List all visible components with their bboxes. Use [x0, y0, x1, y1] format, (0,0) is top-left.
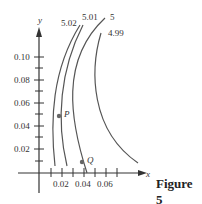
curve-label: 5.02	[61, 18, 77, 28]
level-curve-plot: 0.10 0.08 0.06 0.04 0.02 0.02 0.04 0.06 …	[0, 0, 202, 204]
curve-label: 5	[110, 12, 115, 22]
level-curve-5	[73, 18, 105, 173]
figure-5: 0.10 0.08 0.06 0.04 0.02 0.02 0.04 0.06 …	[0, 0, 202, 204]
level-curve-5-02	[53, 25, 80, 166]
point-p-label: P	[63, 109, 70, 119]
figure-caption: Figure 5	[156, 176, 202, 204]
y-tick-label: 0.02	[14, 144, 30, 154]
curve-label: 4.99	[108, 28, 124, 38]
y-tick-label: 0.08	[14, 75, 30, 85]
point-p-marker	[57, 114, 61, 118]
level-curve-4-99	[95, 33, 138, 163]
x-tick-label: 0.02	[53, 179, 69, 189]
x-tick-label: 0.06	[97, 179, 113, 189]
y-tick-label: 0.06	[14, 98, 30, 108]
x-axis-label: x	[145, 169, 150, 179]
y-tick-label: 0.04	[14, 121, 30, 131]
x-tick-label: 0.04	[75, 179, 91, 189]
point-q-marker	[80, 160, 84, 164]
point-q-label: Q	[87, 155, 94, 165]
y-axis-arrow-icon	[36, 27, 42, 37]
y-axis-label: y	[37, 15, 42, 25]
curve-label: 5.01	[82, 12, 98, 22]
y-tick-label: 0.10	[14, 52, 30, 62]
